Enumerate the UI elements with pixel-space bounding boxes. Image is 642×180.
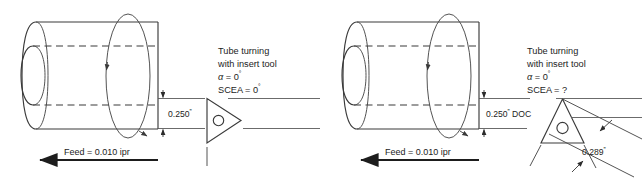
tube-cylinder-right [342,22,479,129]
panel-right [342,14,642,177]
panel-left [21,14,320,166]
rotation-arrow-right [427,14,471,138]
tube-cylinder-left [21,22,158,129]
rotation-arrow-left [106,14,150,138]
technical-diagram [0,0,642,180]
chip-dimension-right [549,99,642,177]
tube-bore-hidden-lines-right [354,46,479,105]
workpiece-surface-right [556,99,642,118]
depth-dimension-left [158,90,205,137]
figure-root: Tube turning with insert tool α = 0° SCE… [0,0,642,180]
insert-tool-right [530,99,596,168]
depth-dimension-right [479,90,530,137]
insert-tool-left [207,99,241,167]
tube-bore-hidden-lines-left [33,46,158,105]
workpiece-surface-left [228,99,320,129]
